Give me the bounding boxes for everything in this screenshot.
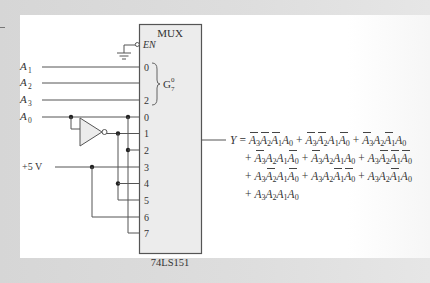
equation-line: Y=A3A2A1A0+A3A2A1A0+A3A2A1A0	[230, 131, 412, 149]
equation-line: +A3A2A1A0	[230, 185, 412, 203]
svg-text:3: 3	[28, 99, 32, 108]
svg-text:0: 0	[171, 76, 175, 84]
svg-text:0: 0	[28, 116, 32, 125]
svg-text:3: 3	[144, 162, 149, 173]
minterm: A3A2A1A0	[368, 152, 412, 164]
select-pin-0: 0	[144, 62, 149, 73]
input-vcc: +5 V	[22, 161, 139, 172]
svg-text:A: A	[19, 76, 27, 88]
svg-text:0: 0	[144, 112, 149, 123]
minterm: A3A2A1A0	[311, 152, 355, 164]
input-a3: A 3	[19, 93, 139, 108]
input-a2: A 2	[19, 76, 139, 91]
input-a0: A 0	[19, 110, 139, 125]
svg-text:+5 V: +5 V	[22, 161, 43, 172]
minterm: A3A2A1A0	[255, 188, 299, 200]
svg-text:5: 5	[144, 195, 149, 206]
svg-text:4: 4	[144, 178, 149, 189]
svg-text:1: 1	[28, 66, 32, 75]
minterm: A3A2A1A0	[255, 152, 299, 164]
minterm: A3A2A1A0	[249, 134, 293, 146]
minterm: A3A2A1A0	[311, 170, 355, 182]
enable-label: EN	[142, 39, 157, 50]
enable-inversion-bubble-icon	[135, 43, 139, 47]
svg-text:A: A	[19, 60, 27, 72]
minterm: A3A2A1A0	[362, 134, 406, 146]
svg-text:2: 2	[28, 82, 32, 91]
inverter-gate-icon	[80, 118, 107, 146]
svg-text:1: 1	[144, 128, 149, 139]
minterm: A3A2A1A0	[368, 170, 412, 182]
equation-line: +A3A2A1A0+A3A2A1A0+A3A2A1A0	[230, 167, 412, 185]
svg-text:G: G	[163, 78, 171, 90]
minterm: A3A2A1A0	[306, 134, 350, 146]
svg-text:A: A	[19, 110, 27, 122]
svg-text:2: 2	[144, 145, 149, 156]
mux-title: MUX	[157, 27, 183, 39]
minterm: A3A2A1A0	[255, 170, 299, 182]
output-equation: Y=A3A2A1A0+A3A2A1A0+A3A2A1A0+A3A2A1A0+A3…	[230, 131, 412, 203]
svg-text:7: 7	[144, 228, 149, 239]
equation-line: +A3A2A1A0+A3A2A1A0+A3A2A1A0	[230, 149, 412, 167]
ground-icon	[117, 45, 136, 59]
select-pin-2: 2	[144, 95, 149, 106]
input-a1: A 1	[19, 60, 139, 75]
part-number-label: 74LS151	[151, 257, 190, 268]
svg-text:6: 6	[144, 212, 149, 223]
svg-text:A: A	[19, 93, 27, 105]
svg-text:7: 7	[171, 85, 175, 93]
